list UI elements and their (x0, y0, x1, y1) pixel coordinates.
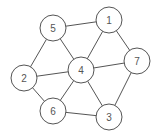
node-7: 7 (124, 48, 150, 74)
node-1: 1 (96, 7, 122, 33)
node-3: 3 (96, 104, 122, 130)
node-4: 4 (68, 57, 94, 83)
graph-diagram: 5174263 (0, 0, 160, 137)
node-label: 1 (106, 15, 112, 26)
node-label: 7 (134, 56, 140, 67)
node-6: 6 (40, 98, 66, 124)
node-label: 4 (78, 65, 84, 76)
node-label: 5 (50, 23, 56, 34)
nodes: 5174263 (11, 7, 150, 130)
node-label: 6 (50, 106, 56, 117)
node-label: 2 (21, 73, 27, 84)
node-2: 2 (11, 65, 37, 91)
node-5: 5 (40, 15, 66, 41)
node-label: 3 (106, 112, 112, 123)
